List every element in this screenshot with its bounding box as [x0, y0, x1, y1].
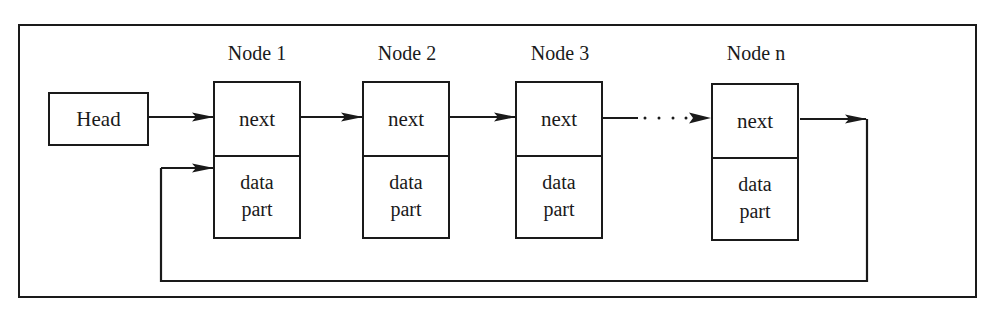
node-2-next-cell: next — [364, 83, 448, 157]
node-n-data-line2: part — [739, 198, 770, 225]
node-1-box: next data part — [213, 81, 301, 239]
node-1-label: Node 1 — [197, 42, 317, 65]
node-2-data-line2: part — [390, 196, 421, 223]
node-n-label: Node n — [696, 42, 816, 65]
node-3-data-line1: data — [542, 169, 575, 196]
node-1-data-line2: part — [241, 196, 272, 223]
node-2-next-label: next — [388, 107, 424, 132]
node-3-label: Node 3 — [500, 42, 620, 65]
node-n-data-line1: data — [738, 171, 771, 198]
node-3-next-cell: next — [517, 83, 601, 157]
node-n-box: next data part — [711, 83, 799, 241]
head-label: Head — [76, 107, 120, 132]
node-n-next-label: next — [737, 109, 773, 134]
node-2-label: Node 2 — [347, 42, 467, 65]
node-2-data-cell: data part — [364, 157, 448, 237]
node-2-data-line1: data — [389, 169, 422, 196]
node-n-data-cell: data part — [713, 159, 797, 239]
node-3-next-label: next — [541, 107, 577, 132]
node-1-data-line1: data — [240, 169, 273, 196]
node-1-next-label: next — [239, 107, 275, 132]
node-3-box: next data part — [515, 81, 603, 239]
head-box: Head — [48, 92, 149, 146]
node-3-data-line2: part — [543, 196, 574, 223]
node-1-next-cell: next — [215, 83, 299, 157]
node-n-next-cell: next — [713, 85, 797, 159]
node-2-box: next data part — [362, 81, 450, 239]
node-3-data-cell: data part — [517, 157, 601, 237]
diagram-frame — [18, 24, 977, 298]
node-1-data-cell: data part — [215, 157, 299, 237]
